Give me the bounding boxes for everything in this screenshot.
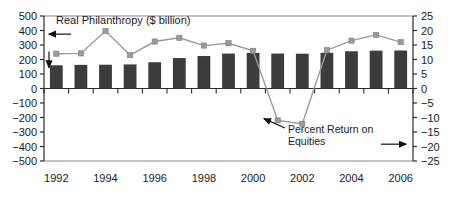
bar — [271, 54, 284, 89]
left-axis-tick-label: 200 — [19, 54, 37, 66]
left-axis-tick-label: −400 — [12, 141, 37, 153]
line-marker — [275, 118, 280, 123]
left-axis-tick-label: 300 — [19, 39, 37, 51]
bar — [75, 65, 88, 89]
bar — [148, 62, 161, 88]
line-marker — [54, 51, 59, 56]
right-axis-tick-label: 5 — [421, 68, 427, 80]
dual-axis-chart: 5004003002001000−100−200−300−400−5002520… — [0, 0, 451, 198]
line-marker — [152, 39, 157, 44]
x-axis-tick-label: 1998 — [192, 172, 216, 184]
right-axis-tick-label: 10 — [421, 54, 433, 66]
bar — [370, 51, 383, 89]
left-axis-tick-label: 400 — [19, 25, 37, 37]
bar-series — [50, 51, 407, 89]
line-marker — [349, 38, 354, 43]
bar — [247, 53, 260, 89]
x-axis-tick-label: 1996 — [142, 172, 166, 184]
line-marker — [78, 51, 83, 56]
bar — [99, 65, 112, 89]
line-marker — [398, 40, 403, 45]
line-marker — [324, 48, 329, 53]
right-series-pointer-arrow — [264, 119, 285, 128]
bar — [173, 58, 186, 88]
right-axis-tick-label: 25 — [421, 10, 433, 22]
line-marker — [201, 43, 206, 48]
left-axis-tick-label: 0 — [31, 83, 37, 95]
line-marker — [374, 32, 379, 37]
right-axis-tick-label: 15 — [421, 39, 433, 51]
x-axis-tick-label: 1994 — [93, 172, 117, 184]
right-axis-tick-label: 20 — [421, 25, 433, 37]
right-axis-tick-label: −25 — [421, 155, 440, 167]
bar — [321, 53, 334, 89]
left-axis-tick-label: 100 — [19, 68, 37, 80]
bar — [345, 51, 358, 88]
x-axis-tick-label: 2004 — [339, 172, 363, 184]
right-axis-tick-label: −20 — [421, 141, 440, 153]
line-marker — [128, 53, 133, 58]
right-axis-tick-label: −10 — [421, 112, 440, 124]
bar — [50, 65, 63, 88]
chart-container: 5004003002001000−100−200−300−400−5002520… — [0, 0, 451, 198]
right-axis-tick-label: −15 — [421, 126, 440, 138]
x-axis-tick-label: 2006 — [388, 172, 412, 184]
left-series-label: Real Philanthropy ($ billion) — [56, 14, 191, 26]
line-marker — [251, 48, 256, 53]
line-marker — [226, 41, 231, 46]
left-axis-tick-label: −300 — [12, 126, 37, 138]
line-marker — [177, 35, 182, 40]
bar — [394, 51, 407, 89]
right-axis-tick-label: 0 — [421, 83, 427, 95]
right-series-label-line2: Equities — [288, 135, 325, 147]
bar — [124, 64, 137, 88]
left-axis-tick-label: −500 — [12, 155, 37, 167]
left-axis-tick-label: −100 — [12, 97, 37, 109]
left-axis-tick-label: −200 — [12, 112, 37, 124]
left-axis-tick-label: 500 — [19, 10, 37, 22]
x-axis-tick-label: 2002 — [290, 172, 314, 184]
right-series-label-line1: Percent Return on — [288, 123, 373, 135]
line-marker — [103, 28, 108, 33]
x-axis-tick-label: 1992 — [44, 172, 68, 184]
right-axis-tick-label: −5 — [421, 97, 434, 109]
bar — [222, 54, 235, 89]
bar — [198, 56, 211, 88]
x-axis-tick-label: 2000 — [241, 172, 265, 184]
bar — [296, 54, 309, 89]
